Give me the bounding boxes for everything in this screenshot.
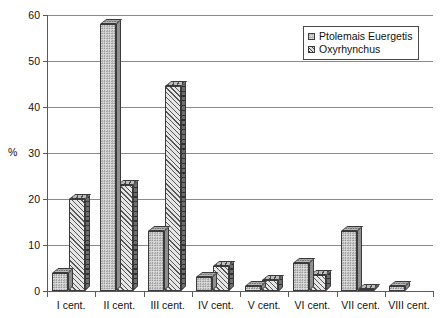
- bar-ptolemais: [389, 286, 405, 291]
- bar-side-face: [357, 226, 362, 291]
- x-tick-mark: [144, 291, 145, 297]
- x-axis-label: VI cent.: [288, 299, 336, 311]
- bar-front-face: [389, 286, 405, 291]
- y-tick-label: 50: [14, 56, 40, 66]
- bar-ptolemais: [52, 273, 68, 291]
- x-axis-label: VII cent.: [337, 299, 385, 311]
- x-tick-mark: [288, 291, 289, 297]
- bar-side-face: [229, 261, 234, 291]
- bar-front-face: [148, 231, 164, 291]
- bar-ptolemais: [100, 24, 116, 291]
- bar-ptolemais: [245, 286, 261, 291]
- legend-swatch-icon: [308, 33, 315, 40]
- y-tick-label: 30: [14, 148, 40, 158]
- bar-side-face: [85, 194, 90, 291]
- x-tick-mark: [385, 291, 386, 297]
- x-axis-label: V cent.: [240, 299, 288, 311]
- x-axis-label: I cent.: [47, 299, 95, 311]
- legend-label: Ptolemais Euergetis: [319, 31, 412, 42]
- bar-ptolemais: [148, 231, 164, 291]
- x-tick-mark: [433, 291, 434, 297]
- bar-front-face: [196, 277, 212, 291]
- bar-ptolemais: [196, 277, 212, 291]
- legend-item: Ptolemais Euergetis: [308, 30, 412, 43]
- y-tick-label: 10: [14, 240, 40, 250]
- bar-chart: % 0102030405060 I cent.II cent.III cent.…: [0, 0, 441, 318]
- y-tick-label: 60: [14, 10, 40, 20]
- y-tick-label: 40: [14, 102, 40, 112]
- y-tick-label: 20: [14, 194, 40, 204]
- bar-front-face: [100, 24, 116, 291]
- bar-side-face: [309, 258, 314, 291]
- bar-side-face: [133, 180, 138, 291]
- x-axis-label: III cent.: [144, 299, 192, 311]
- x-tick-mark: [95, 291, 96, 297]
- x-tick-mark: [47, 291, 48, 297]
- x-tick-mark: [240, 291, 241, 297]
- bar-side-face: [181, 81, 186, 291]
- bar-front-face: [341, 231, 357, 291]
- bar-side-face: [164, 226, 169, 291]
- x-tick-mark: [192, 291, 193, 297]
- legend-label: Oxyrhynchus: [319, 44, 380, 55]
- legend: Ptolemais Euergetis Oxyrhynchus: [303, 26, 419, 60]
- x-axis-label: II cent.: [95, 299, 143, 311]
- bar-ptolemais: [293, 263, 309, 291]
- bar-front-face: [245, 286, 261, 291]
- bar-front-face: [52, 273, 68, 291]
- bar-oxyrhynchus: [358, 289, 374, 291]
- x-axis-label: IV cent.: [192, 299, 240, 311]
- bar-front-face: [358, 289, 374, 291]
- x-tick-mark: [337, 291, 338, 297]
- legend-item: Oxyrhynchus: [308, 43, 412, 56]
- x-axis-label: VIII cent.: [385, 299, 433, 311]
- bar-side-face: [116, 19, 121, 291]
- bar-ptolemais: [341, 231, 357, 291]
- bar-front-face: [293, 263, 309, 291]
- legend-swatch-icon: [308, 46, 315, 53]
- y-tick-label: 0: [14, 286, 40, 296]
